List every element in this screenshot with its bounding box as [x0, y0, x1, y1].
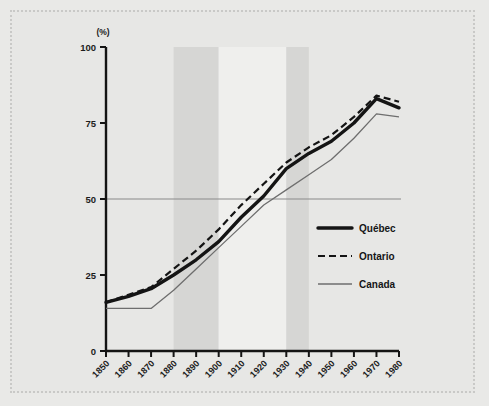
x-tick-label-1930: 1930: [270, 358, 291, 379]
x-tick-label-1950: 1950: [316, 358, 337, 379]
legend-label-canada: Canada: [359, 279, 396, 290]
y-tick-label-100: 100: [80, 42, 96, 53]
x-tick-label-1890: 1890: [180, 358, 201, 379]
legend-label-qubec: Québec: [359, 223, 396, 234]
x-tick-label-1860: 1860: [113, 358, 134, 379]
legend-label-ontario: Ontario: [359, 251, 395, 262]
x-tick-label-1870: 1870: [135, 358, 156, 379]
x-tick-label-1900: 1900: [203, 358, 224, 379]
plot-area: 0255075100 18501860187018801890190019101…: [0, 0, 489, 406]
figure-root: 0255075100 18501860187018801890190019101…: [0, 0, 489, 406]
x-tick-label-1920: 1920: [248, 358, 269, 379]
y-tick-labels-group: 0255075100: [80, 42, 97, 357]
x-tick-label-1960: 1960: [338, 358, 359, 379]
legend-group: QuébecOntarioCanada: [318, 223, 396, 290]
x-tick-label-1980: 1980: [383, 358, 404, 379]
x-tick-label-1940: 1940: [293, 358, 314, 379]
line-chart: 0255075100 18501860187018801890190019101…: [0, 0, 489, 406]
y-tick-label-25: 25: [85, 270, 96, 281]
y-axis-unit-label: (%): [96, 27, 109, 37]
y-axis-unit-label-group: (%): [96, 27, 109, 37]
y-tick-label-0: 0: [91, 346, 96, 357]
x-tick-label-1880: 1880: [158, 358, 179, 379]
y-tick-label-50: 50: [85, 194, 96, 205]
x-tick-label-1850: 1850: [90, 358, 111, 379]
x-tick-label-1970: 1970: [361, 358, 382, 379]
y-tick-label-75: 75: [85, 118, 96, 129]
x-tick-labels-group: 1850186018701880189019001910192019301940…: [90, 358, 404, 379]
x-tick-label-1910: 1910: [225, 358, 246, 379]
